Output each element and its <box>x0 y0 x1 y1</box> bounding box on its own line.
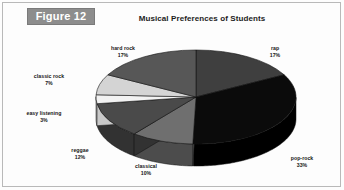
slice-label-reggae-percent: 12% <box>55 154 105 161</box>
slice-label-classical: classical 10% <box>120 163 172 177</box>
slice-label-easy-listening: easy listening 3% <box>14 110 74 124</box>
slice-label-pop-rock: pop-rock 33% <box>276 155 328 169</box>
slice-label-classical-name: classical <box>135 163 157 169</box>
slice-label-classic-rock-name: classic rock <box>34 73 64 79</box>
slice-label-classic-rock: classic rock 7% <box>20 73 78 87</box>
slice-label-classic-rock-percent: 7% <box>20 80 78 87</box>
figure-container: Figure 12 Musical Preferences of Student… <box>0 0 344 190</box>
slice-label-hard-rock-percent: 17% <box>95 52 151 59</box>
slice-label-rap: rap 17% <box>252 45 298 59</box>
slice-label-pop-rock-percent: 33% <box>276 162 328 169</box>
pie-chart: rap 17% pop-rock 33% classical 10% regga… <box>0 0 344 190</box>
slice-label-rap-name: rap <box>271 45 279 51</box>
slice-label-hard-rock: hard rock 17% <box>95 45 151 59</box>
slice-label-classical-percent: 10% <box>120 170 172 177</box>
slice-label-rap-percent: 17% <box>252 52 298 59</box>
slice-label-easy-listening-name: easy listening <box>26 110 61 116</box>
slice-label-reggae: reggae 12% <box>55 147 105 161</box>
slice-label-easy-listening-percent: 3% <box>14 117 74 124</box>
slice-label-hard-rock-name: hard rock <box>111 45 135 51</box>
slice-label-pop-rock-name: pop-rock <box>291 155 314 161</box>
slice-label-reggae-name: reggae <box>71 147 88 153</box>
pie-slice-tops <box>96 50 296 144</box>
